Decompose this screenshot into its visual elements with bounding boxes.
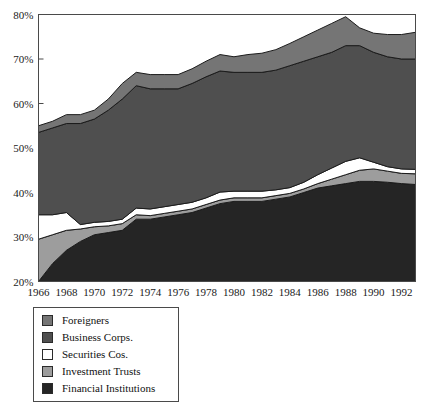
x-axis-tick-label: 1972 bbox=[111, 286, 133, 298]
x-axis-tick-label: 1968 bbox=[55, 286, 78, 298]
x-axis-tick-label: 1976 bbox=[167, 286, 190, 298]
x-axis-tick-label: 1982 bbox=[251, 286, 273, 298]
y-axis-tick-label: 70% bbox=[13, 53, 33, 65]
stacked-area-chart: 20%30%40%50%60%70%80% 196619681970197219… bbox=[0, 0, 426, 413]
area-series-group bbox=[39, 17, 416, 300]
legend-item: Foreigners bbox=[42, 312, 172, 329]
y-axis-tick-label: 40% bbox=[13, 187, 33, 199]
x-axis-tick-label: 1988 bbox=[335, 286, 358, 298]
x-axis-tick-label: 1978 bbox=[195, 286, 218, 298]
y-axis-tick-label: 60% bbox=[13, 98, 33, 110]
legend-swatch-icon bbox=[42, 332, 53, 343]
y-axis-tick-labels: 20%30%40%50%60%70%80% bbox=[13, 9, 33, 288]
legend-item-label: Business Corps. bbox=[62, 332, 133, 343]
legend-item-label: Foreigners bbox=[62, 315, 109, 326]
y-axis-tick-label: 50% bbox=[13, 142, 33, 154]
x-axis-tick-label: 1970 bbox=[83, 286, 106, 298]
x-axis-tick-label: 1986 bbox=[307, 286, 330, 298]
x-axis-tick-label: 1966 bbox=[28, 286, 51, 298]
x-axis-tick-label: 1984 bbox=[279, 286, 302, 298]
legend-swatch-icon bbox=[42, 366, 53, 377]
legend-swatch-icon bbox=[42, 315, 53, 326]
y-axis-tick-label: 30% bbox=[13, 231, 33, 243]
x-axis-tick-label: 1992 bbox=[391, 286, 413, 298]
legend-item: Financial Institutions bbox=[42, 380, 172, 397]
legend-item: Business Corps. bbox=[42, 329, 172, 346]
legend-swatch-icon bbox=[42, 349, 53, 360]
legend-item-label: Financial Institutions bbox=[62, 383, 155, 394]
chart-plot-area: 20%30%40%50%60%70%80% 196619681970197219… bbox=[0, 0, 426, 300]
x-axis-tick-label: 1990 bbox=[363, 286, 386, 298]
legend-item: Investment Trusts bbox=[42, 363, 172, 380]
legend-swatch-icon bbox=[42, 383, 53, 394]
x-axis-tick-labels: 1966196819701972197419761978198019821984… bbox=[28, 286, 413, 298]
x-axis-tick-label: 1974 bbox=[139, 286, 162, 298]
y-axis-tick-label: 80% bbox=[13, 9, 33, 21]
legend-item-label: Securities Cos. bbox=[62, 349, 128, 360]
chart-legend: ForeignersBusiness Corps.Securities Cos.… bbox=[33, 307, 179, 402]
x-axis-tick-label: 1980 bbox=[223, 286, 246, 298]
legend-item: Securities Cos. bbox=[42, 346, 172, 363]
legend-item-label: Investment Trusts bbox=[62, 366, 141, 377]
